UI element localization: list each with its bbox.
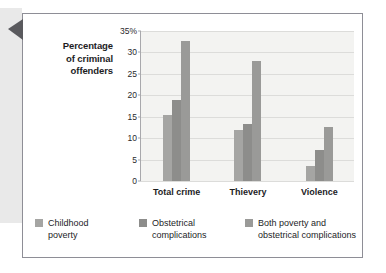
y-tick-label-25: 25 (128, 69, 137, 79)
bar (243, 124, 252, 181)
bar (234, 130, 243, 181)
bar-group: Thievery (212, 31, 283, 181)
legend-label-line-1: poverty (48, 229, 89, 241)
bar (252, 61, 261, 181)
bar-chart: Percentageof criminaloffenders 051015202… (23, 14, 364, 211)
legend-label-line-1: complications (152, 229, 207, 241)
page-edge-strip (0, 8, 22, 223)
plot-background: 05101520253035% Total crimeThieveryViole… (140, 31, 354, 181)
y-tick-label-0: 0 (132, 176, 137, 186)
bar-group: Violence (284, 31, 355, 181)
legend-swatch-icon (35, 219, 43, 227)
bar (172, 100, 181, 181)
legend-swatch-icon (139, 219, 147, 227)
chart-legend: ChildhoodpovertyObstetricalcomplications… (23, 211, 364, 257)
x-axis-category-label: Thievery (212, 187, 283, 197)
left-triangle-marker-icon (8, 19, 23, 40)
legend-label: Both poverty andobstetrical complication… (258, 217, 356, 241)
figure-panel: Percentageof criminaloffenders 051015202… (22, 13, 363, 258)
y-tick-label-10: 10 (128, 133, 137, 143)
bar-groups: Total crimeThieveryViolence (141, 31, 354, 181)
y-axis-title-line-0: Percentage (31, 40, 113, 53)
bar (181, 41, 190, 181)
bar (163, 115, 172, 181)
bar (306, 166, 315, 181)
legend-item: Childhoodpoverty (35, 217, 89, 241)
y-tick-label-5: 5 (132, 155, 137, 165)
plot-area: 05101520253035% Total crimeThieveryViole… (140, 31, 354, 181)
legend-label-line-0: Both poverty and (258, 217, 356, 229)
legend-swatch-icon (245, 219, 253, 227)
bar-group: Total crime (141, 31, 212, 181)
y-axis-title: Percentageof criminaloffenders (31, 40, 113, 78)
legend-label: Childhoodpoverty (48, 217, 89, 241)
bar (315, 150, 324, 181)
legend-label-line-1: obstetrical complications (258, 229, 356, 241)
legend-label-line-0: Childhood (48, 217, 89, 229)
y-axis-title-line-2: offenders (31, 65, 113, 78)
x-axis-category-label: Violence (284, 187, 355, 197)
legend-label: Obstetricalcomplications (152, 217, 207, 241)
y-tick-label-35: 35% (120, 26, 137, 36)
bar (324, 127, 333, 181)
legend-item: Both poverty andobstetrical complication… (245, 217, 356, 241)
y-tick-label-30: 30 (128, 47, 137, 57)
x-axis-category-label: Total crime (141, 187, 212, 197)
legend-label-line-0: Obstetrical (152, 217, 207, 229)
gridline-0 (141, 181, 354, 182)
y-tick-label-20: 20 (128, 90, 137, 100)
legend-item: Obstetricalcomplications (139, 217, 207, 241)
y-axis-title-line-1: of criminal (31, 53, 113, 66)
y-tick-label-15: 15 (128, 112, 137, 122)
